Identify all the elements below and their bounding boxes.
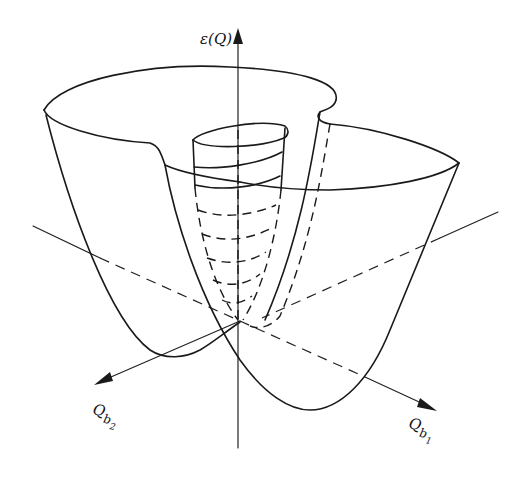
energy-axis-arrowhead-icon bbox=[233, 28, 243, 44]
qb1-label: Qb1 bbox=[405, 414, 436, 446]
qb2-label: Qb2 bbox=[89, 400, 120, 432]
energy-axis-label: ε(Q) bbox=[200, 30, 232, 48]
labels: ε(Q) Qb2 Qb1 bbox=[89, 30, 436, 446]
qb1-axis bbox=[33, 226, 437, 411]
qb1-arrowhead-icon bbox=[417, 398, 437, 411]
outer-surface bbox=[44, 66, 459, 410]
qb2-arrowhead-icon bbox=[94, 372, 113, 385]
inner-well bbox=[193, 123, 288, 320]
energy-surface-diagram: ε(Q) Qb2 Qb1 bbox=[0, 0, 518, 483]
qb2-axis bbox=[94, 212, 498, 385]
